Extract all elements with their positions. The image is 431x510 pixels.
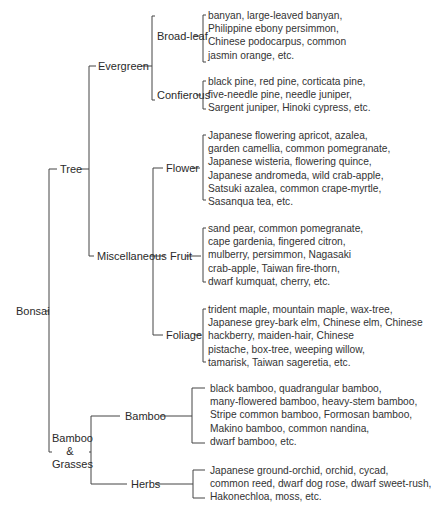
node-bamboo-grasses-line: & xyxy=(52,445,88,458)
leaf-line: cape gardenia, fingered citron, xyxy=(208,235,363,248)
leaf-foliage: trident maple, mountain maple, wax-tree,… xyxy=(208,303,423,369)
leaf-coniferous: black pine, red pine, corticata pine, fi… xyxy=(208,75,371,115)
node-bamboo-grasses-line: Grasses xyxy=(52,458,88,471)
node-bamboo: Bamboo xyxy=(125,410,166,422)
leaf-line: Japanese flowering apricot, azalea, xyxy=(208,129,390,142)
leaf-line: black bamboo, quadrangular bamboo, xyxy=(210,382,417,395)
leaf-bamboo: black bamboo, quadrangular bamboo, many-… xyxy=(210,382,417,448)
node-evergreen: Evergreen xyxy=(98,60,149,72)
leaf-line: Chinese podocarpus, common xyxy=(208,35,346,48)
node-bamboo-grasses: Bamboo & Grasses xyxy=(52,432,88,471)
leaf-line: banyan, large-leaved banyan, xyxy=(208,9,346,22)
leaf-line: Japanese ground-orchid, orchid, cycad, xyxy=(210,464,431,477)
leaf-line: five-needle pine, needle juniper, xyxy=(208,88,371,101)
leaf-line: dwarf kumquat, cherry, etc. xyxy=(208,275,363,288)
node-tree: Tree xyxy=(60,163,82,175)
leaf-line: black pine, red pine, corticata pine, xyxy=(208,75,371,88)
node-flower: Flower xyxy=(166,162,199,174)
leaf-line: hackberry, maiden-hair, Chinese xyxy=(208,329,423,342)
leaf-line: Sargent juniper, Hinoki cypress, etc. xyxy=(208,101,371,114)
leaf-line: Satsuki azalea, common crape-myrtle, xyxy=(208,182,390,195)
leaf-line: trident maple, mountain maple, wax-tree, xyxy=(208,303,423,316)
leaf-line: Sasanqua tea, etc. xyxy=(208,195,390,208)
leaf-line: Makino bamboo, common nandina, xyxy=(210,422,417,435)
leaf-line: jasmin orange, etc. xyxy=(208,49,346,62)
node-bonsai: Bonsai xyxy=(16,305,50,317)
leaf-line: dwarf bamboo, etc. xyxy=(210,435,417,448)
node-foliage: Foliage xyxy=(166,329,202,341)
node-miscellaneous: Miscellaneous xyxy=(97,250,167,262)
leaf-broadleaf: banyan, large-leaved banyan, Philippine … xyxy=(208,9,346,62)
leaf-line: pistache, box-tree, weeping willow, xyxy=(208,343,423,356)
leaf-line: crab-apple, Taiwan fire-thorn, xyxy=(208,262,363,275)
leaf-line: Hakonechloa, moss, etc. xyxy=(210,490,431,503)
leaf-flower: Japanese flowering apricot, azalea, gard… xyxy=(208,129,390,208)
leaf-line: Stripe common bamboo, Formosan bamboo, xyxy=(210,408,417,421)
node-coniferous: Confierous xyxy=(157,89,210,101)
leaf-herbs: Japanese ground-orchid, orchid, cycad, c… xyxy=(210,464,431,504)
leaf-line: Japanese wisteria, flowering quince, xyxy=(208,155,390,168)
node-broadleaf: Broad-leaf xyxy=(157,30,208,42)
leaf-line: garden camellia, common pomegranate, xyxy=(208,142,390,155)
leaf-line: tamarisk, Taiwan sageretia, etc. xyxy=(208,356,423,369)
leaf-line: many-flowered bamboo, heavy-stem bamboo, xyxy=(210,395,417,408)
leaf-line: Japanese grey-bark elm, Chinese elm, Chi… xyxy=(208,316,423,329)
node-fruit: Fruit xyxy=(170,250,192,262)
leaf-fruit: sand pear, common pomegranate, cape gard… xyxy=(208,222,363,288)
leaf-line: mulberry, persimmon, Nagasaki xyxy=(208,248,363,261)
leaf-line: Japanese andromeda, wild crab-apple, xyxy=(208,169,390,182)
leaf-line: sand pear, common pomegranate, xyxy=(208,222,363,235)
node-herbs: Herbs xyxy=(131,478,160,490)
leaf-line: Philippine ebony persimmon, xyxy=(208,22,346,35)
node-bamboo-grasses-line: Bamboo xyxy=(52,432,88,445)
leaf-line: common reed, dwarf dog rose, dwarf sweet… xyxy=(210,477,431,490)
